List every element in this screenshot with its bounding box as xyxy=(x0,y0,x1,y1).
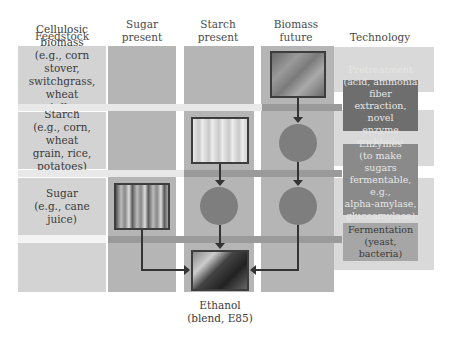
arrow-down-icon xyxy=(293,117,303,123)
leaf-photo xyxy=(270,51,326,98)
connector-line xyxy=(297,225,299,271)
header-technology: Technology xyxy=(335,31,425,44)
header-sugar-present: Sugar present xyxy=(108,18,176,44)
tech-fermentation: Fermentation (yeast, bacteria) xyxy=(343,223,418,261)
process-circle-biomass-1 xyxy=(279,124,317,162)
tech-pretreatment: Pretreatment (acid, ammonia fiber extrac… xyxy=(343,80,418,131)
tech-enzymes: Enzymes (to make sugars fermentable, e.g… xyxy=(343,144,418,215)
row-separator xyxy=(18,235,106,243)
arrow-down-icon xyxy=(293,180,303,186)
row-label-sugar: Sugar (e.g., cane juice) xyxy=(18,178,106,235)
process-circle-biomass-2 xyxy=(279,187,317,225)
arrow-down-icon xyxy=(215,243,225,249)
header-biomass-future: Biomass future xyxy=(262,18,330,44)
connector-line xyxy=(141,230,143,271)
header-starch-present: Starch present xyxy=(184,18,252,44)
sugarcane-photo xyxy=(114,183,170,230)
corn-kernels-photo xyxy=(191,117,249,164)
fermentation-band xyxy=(108,236,342,243)
row-label-empty xyxy=(18,243,106,292)
connector-line xyxy=(141,269,185,271)
row-label-cellulosic: Cellulosic biomass (e.g., corn stover, s… xyxy=(18,46,106,104)
connector-line xyxy=(219,225,221,245)
enzymes-band xyxy=(184,170,342,177)
arrow-down-icon xyxy=(215,180,225,186)
pretreatment-band xyxy=(262,104,342,111)
process-circle-starch xyxy=(200,187,238,225)
connector-line xyxy=(256,269,299,271)
arrow-left-icon xyxy=(250,265,256,275)
arrow-right-icon xyxy=(184,265,190,275)
row-label-starch: Starch (e.g., corn, wheat grain, rice, p… xyxy=(18,112,106,169)
ethanol-label: Ethanol (blend, E85) xyxy=(180,299,260,325)
fuel-pump-photo xyxy=(191,250,249,291)
connector-line xyxy=(297,162,299,182)
